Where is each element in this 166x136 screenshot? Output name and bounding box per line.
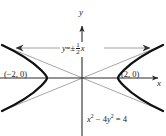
asymptote-equation-label: y=±12x [60,42,87,57]
hyperbola-figure: y x y=±12x (−2, 0) (2, 0) x2 − 4y2 = 4 [0,0,166,136]
asymptote-plus-minus: ± [71,43,76,53]
y-axis-label: y [79,8,83,17]
figure-canvas [0,0,166,136]
right-vertex-label: (2, 0) [121,70,139,79]
asymptote-variable: x [81,43,85,53]
fraction-denominator: 2 [76,49,80,56]
equation-right-side: 4 [123,114,127,124]
asymptote-fraction: 12 [76,42,80,57]
x-axis-label: x [157,79,161,88]
hyperbola-equation-label: x2 − 4y2 = 4 [87,115,127,124]
left-vertex-label: (−2, 0) [4,70,27,79]
